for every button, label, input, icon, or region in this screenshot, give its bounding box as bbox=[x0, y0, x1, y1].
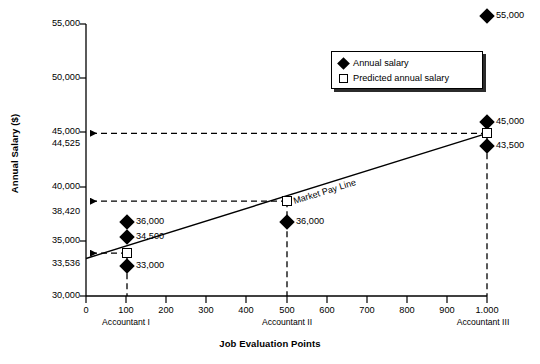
legend-item-annual-salary[interactable]: Annual salary bbox=[339, 56, 409, 70]
data-point-label: 36,000 bbox=[136, 216, 164, 226]
legend-label: Predicted annual salary bbox=[353, 73, 449, 83]
y-tick-label: 44,525 bbox=[6, 138, 80, 148]
y-tick-label: 38,420 bbox=[6, 206, 80, 216]
chart-figure: Annual Salary ($) 55,000 50,000 45,000 4… bbox=[0, 0, 540, 364]
y-axis-ticks bbox=[80, 24, 86, 296]
y-tick-label: 35,000 bbox=[6, 235, 80, 245]
y-tick-33536: 33,536 bbox=[0, 258, 80, 270]
y-tick-label: 45,000 bbox=[6, 126, 80, 136]
y-tick-44525: 44,525 bbox=[0, 138, 80, 150]
legend-label: Annual salary bbox=[353, 58, 409, 68]
filled-diamond-icon bbox=[337, 57, 350, 70]
x-group-label-accountant-3: Accountant III bbox=[435, 317, 531, 327]
data-point-label: 33,000 bbox=[136, 260, 164, 270]
x-group-label-accountant-1: Accountant I bbox=[78, 317, 174, 327]
data-point-predicted-salary[interactable] bbox=[122, 248, 132, 258]
y-tick-50000: 50,000 bbox=[0, 72, 80, 84]
y-tick-38420: 38,420 bbox=[0, 206, 80, 218]
data-point-predicted-salary[interactable] bbox=[482, 128, 492, 138]
x-axis-title: Job Evaluation Points bbox=[0, 338, 540, 349]
y-axis-title: Annual Salary ($) bbox=[9, 94, 20, 214]
y-tick-label: 33,536 bbox=[6, 258, 80, 268]
chart-legend: Annual salary Predicted annual salary bbox=[331, 51, 483, 89]
y-tick-40000: 40,000 bbox=[0, 181, 80, 193]
data-point-label: 43,500 bbox=[496, 140, 524, 150]
y-tick-label: 40,000 bbox=[6, 181, 80, 191]
legend-item-predicted-salary[interactable]: Predicted annual salary bbox=[339, 71, 449, 85]
data-point-label: 34,500 bbox=[136, 231, 164, 241]
open-square-icon bbox=[339, 74, 348, 83]
data-point-label: 55,000 bbox=[496, 10, 524, 20]
y-tick-label: 50,000 bbox=[6, 72, 80, 82]
data-point-label: 36,000 bbox=[296, 216, 324, 226]
x-group-label-accountant-2: Accountant II bbox=[239, 317, 335, 327]
y-tick-45000: 45,000 bbox=[0, 126, 80, 138]
data-point-predicted-salary[interactable] bbox=[282, 196, 292, 206]
y-tick-35000: 35,000 bbox=[0, 235, 80, 247]
data-point-label: 45,000 bbox=[496, 116, 524, 126]
y-tick-label: 30,000 bbox=[6, 290, 80, 300]
x-tick-400: 400 bbox=[223, 305, 269, 315]
y-tick-30000: 30,000 bbox=[0, 290, 80, 302]
y-tick-55000: 55,000 bbox=[0, 18, 80, 30]
x-tick-1000: 1.000 bbox=[464, 305, 510, 315]
y-tick-label: 55,000 bbox=[6, 18, 80, 28]
x-axis-ticks bbox=[86, 296, 487, 303]
